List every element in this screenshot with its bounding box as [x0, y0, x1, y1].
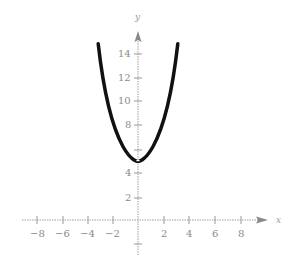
y-tick-label: 8 [125, 119, 131, 130]
y-tick-label: 12 [118, 72, 131, 83]
x-axis-label: x [276, 215, 281, 225]
x-tick-label: −6 [55, 228, 70, 239]
y-tick-label: 2 [125, 192, 131, 203]
x-tick-label: 2 [161, 228, 167, 239]
x-tick-label: 8 [238, 228, 244, 239]
y-axis-label: y [134, 12, 141, 22]
y-axis: y 2 4 8 10 12 14 [118, 12, 142, 256]
y-tick-label: 10 [118, 95, 131, 106]
y-tick-label: 4 [125, 167, 131, 178]
parabola-chart: x −8 −6 −4 −2 2 4 6 8 y [0, 0, 293, 263]
x-axis: x −8 −6 −4 −2 2 4 6 8 [22, 215, 281, 239]
y-axis-arrow-icon [135, 31, 142, 42]
x-tick-label: 6 [212, 228, 218, 239]
y-tick-label: 14 [118, 48, 131, 59]
x-tick-label: 4 [186, 228, 192, 239]
x-tick-label: −2 [105, 228, 120, 239]
x-tick-label: −4 [80, 228, 95, 239]
x-tick-label: −8 [30, 228, 45, 239]
